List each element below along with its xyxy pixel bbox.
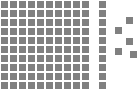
waffle-chart-canvas <box>0 0 139 91</box>
unit-group-scattered-units <box>0 0 139 91</box>
unit-square <box>126 17 133 24</box>
unit-square <box>126 38 133 45</box>
unit-square <box>115 48 122 55</box>
unit-square <box>115 27 122 34</box>
unit-square <box>130 51 137 58</box>
